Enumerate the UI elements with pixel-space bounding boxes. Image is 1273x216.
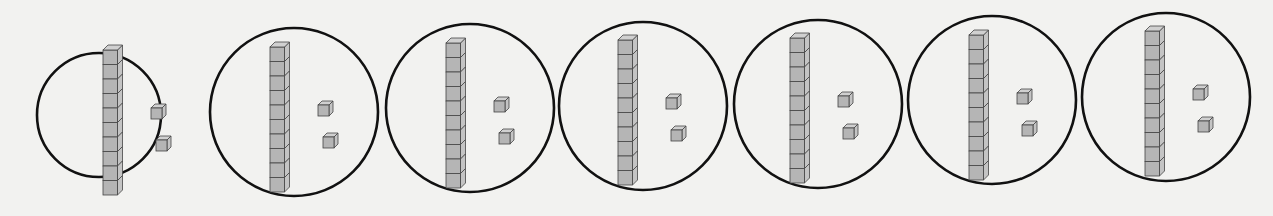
block-group-1 (37, 45, 171, 195)
unit-cube (323, 133, 338, 148)
tens-rod (270, 42, 290, 192)
block-group-4 (559, 22, 727, 190)
tens-rod (103, 45, 123, 195)
group-circle (37, 53, 161, 177)
block-group-7 (1082, 13, 1250, 181)
group-circle (559, 22, 727, 190)
tens-rod (790, 33, 810, 183)
group-circle (386, 24, 554, 192)
unit-cube (1017, 89, 1032, 104)
unit-cube (499, 129, 514, 144)
unit-cube (671, 126, 686, 141)
tens-rod (969, 30, 989, 180)
tens-rod (446, 38, 466, 188)
group-circle (908, 16, 1076, 184)
unit-cube (494, 97, 509, 112)
block-group-6 (908, 16, 1076, 184)
unit-cube (1022, 121, 1037, 136)
unit-cube (151, 104, 166, 119)
unit-cube (843, 124, 858, 139)
tens-rod (618, 35, 638, 185)
unit-cube (156, 136, 171, 151)
block-group-5 (734, 20, 902, 188)
unit-cube (666, 94, 681, 109)
block-group-3 (386, 24, 554, 192)
unit-cube (1193, 85, 1208, 100)
unit-cube (1198, 117, 1213, 132)
group-circle (1082, 13, 1250, 181)
base-ten-blocks-figure (0, 0, 1273, 216)
block-group-2 (210, 28, 378, 196)
unit-cube (318, 101, 333, 116)
tens-rod (1145, 26, 1165, 176)
group-circle (210, 28, 378, 196)
group-circle (734, 20, 902, 188)
unit-cube (838, 92, 853, 107)
